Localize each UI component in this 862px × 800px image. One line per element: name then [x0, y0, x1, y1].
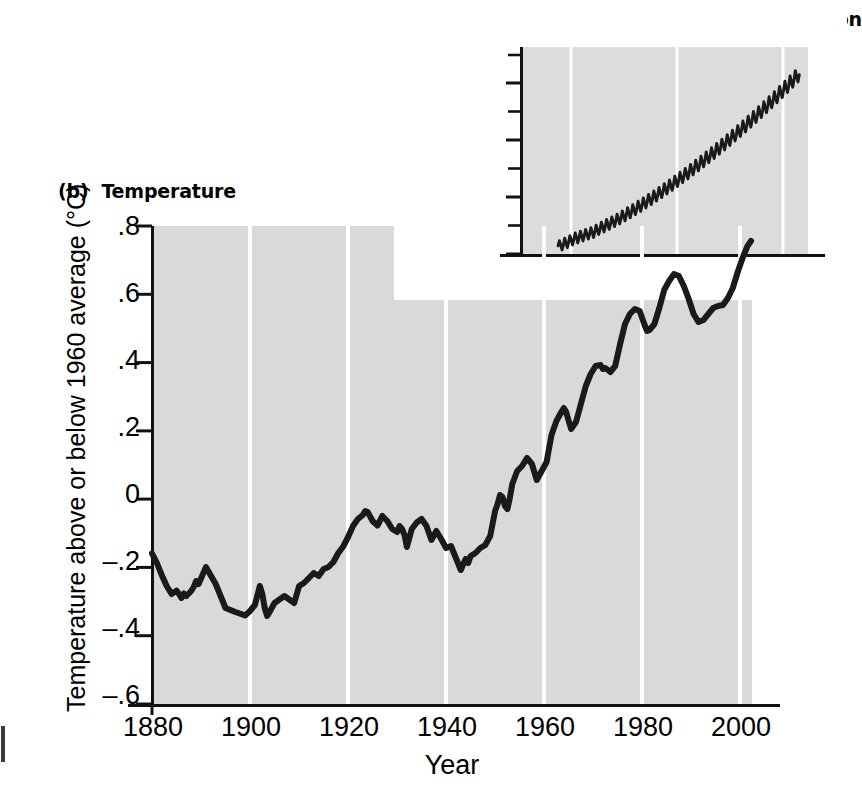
panel-b-title-text: Temperature: [101, 180, 235, 202]
panel-b-ytick-marks: [136, 226, 152, 704]
page-edge-mark: [1, 726, 5, 762]
panel-b-temperature-curve: [152, 226, 752, 704]
temperature-anomaly-line: [152, 241, 751, 616]
panel-b-xlabel: Year: [352, 750, 552, 781]
